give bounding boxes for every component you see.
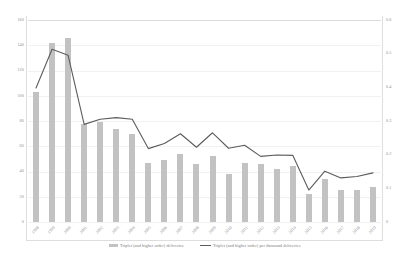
y-left-tick-label: 160 (0, 18, 24, 22)
x-tick-label: 2013 (271, 225, 281, 235)
x-tick-label: 2006 (159, 225, 169, 235)
bar-swatch-icon (109, 244, 118, 247)
line-swatch-icon (200, 245, 211, 247)
chart-figure: 020406080100120140160 00.10.20.30.40.50.… (0, 0, 409, 266)
x-tick-label: 2001 (78, 225, 88, 235)
x-axis-year-labels: 1998199920002001200220032004200520062007… (28, 224, 381, 242)
line-series-triplet-rate (28, 20, 381, 222)
x-tick-label: 2005 (143, 225, 153, 235)
x-tick-label: 2017 (335, 225, 345, 235)
x-tick-label: 2011 (239, 225, 249, 235)
y-right-tick-label: 0 (386, 220, 408, 224)
y-left-tick-label: 140 (0, 43, 24, 47)
x-tick-label: 1998 (30, 225, 40, 235)
y-left-tick-label: 0 (0, 220, 24, 224)
y-right-tick-label: 0.5 (386, 51, 408, 55)
y-left-tick-label: 40 (0, 169, 24, 173)
y-left-tick-label: 100 (0, 94, 24, 98)
y-right-tick-label: 0.2 (386, 152, 408, 156)
x-tick-label: 2015 (303, 225, 313, 235)
y-left-tick-label: 60 (0, 144, 24, 148)
legend-item-line: Triplet (and higher order) per thousand … (200, 243, 301, 248)
x-tick-label: 2010 (223, 225, 233, 235)
y-right-tick-label: 0.3 (386, 119, 408, 123)
x-tick-label: 2016 (319, 225, 329, 235)
chart-legend: Triplet (and higher order) deliveries Tr… (0, 243, 409, 248)
x-tick-label: 2019 (367, 225, 377, 235)
y-left-tick-label: 20 (0, 195, 24, 199)
y-left-tick-label: 80 (0, 119, 24, 123)
legend-item-bars: Triplet (and higher order) deliveries (109, 243, 184, 248)
x-tick-label: 2003 (111, 225, 121, 235)
x-tick-label: 2002 (95, 225, 105, 235)
x-tick-label: 2009 (207, 225, 217, 235)
x-tick-label: 2014 (287, 225, 297, 235)
y-right-tick-label: 0.1 (386, 186, 408, 190)
x-tick-label: 2000 (62, 225, 72, 235)
y-right-tick-label: 0.4 (386, 85, 408, 89)
y-left-tick-label: 120 (0, 68, 24, 72)
x-tick-label: 1999 (46, 225, 56, 235)
x-tick-label: 2004 (127, 225, 137, 235)
gridline (28, 222, 381, 223)
x-tick-label: 2012 (255, 225, 265, 235)
plot-area (28, 20, 381, 222)
x-tick-label: 2018 (351, 225, 361, 235)
legend-label-bars: Triplet (and higher order) deliveries (120, 243, 184, 248)
rate-line-path (36, 49, 373, 190)
x-tick-label: 2008 (191, 225, 201, 235)
legend-label-line: Triplet (and higher order) per thousand … (213, 243, 300, 248)
y-right-tick-label: 0.6 (386, 18, 408, 22)
x-tick-label: 2007 (175, 225, 185, 235)
